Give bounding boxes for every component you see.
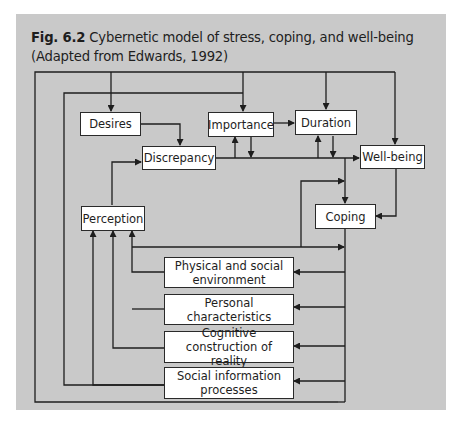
node-importance-label: Importance [208, 118, 274, 132]
arrow-desires-discrepancy [141, 124, 180, 145]
arrow-wellbeing-coping [376, 169, 396, 216]
node-physical-social-environment: Physical and social environment [164, 257, 294, 288]
node-duration: Duration [295, 110, 357, 135]
node-cognitive-construction-label: Cognitive construction of reality [167, 326, 291, 368]
node-cognitive-construction: Cognitive construction of reality [164, 331, 294, 363]
node-discrepancy-label: Discrepancy [144, 151, 215, 165]
node-perception: Perception [81, 206, 145, 231]
node-coping-label: Coping [325, 210, 365, 224]
node-discrepancy: Discrepancy [142, 146, 216, 170]
node-personal-characteristics: Personal characteristics [164, 294, 294, 325]
node-personal-characteristics-label: Personal characteristics [179, 296, 279, 324]
node-well-being: Well-being [360, 145, 425, 169]
node-perception-label: Perception [83, 212, 144, 226]
node-social-information-processes-label: Social information processes [173, 369, 285, 397]
node-desires-label: Desires [89, 117, 132, 131]
node-duration-label: Duration [301, 116, 351, 130]
node-physical-social-environment-label: Physical and social environment [170, 259, 288, 287]
node-importance: Importance [208, 112, 274, 137]
node-coping: Coping [315, 204, 376, 229]
node-desires: Desires [80, 112, 141, 136]
node-well-being-label: Well-being [362, 150, 422, 164]
arrow-perception-discrepancy [112, 162, 141, 205]
node-social-information-processes: Social information processes [164, 367, 294, 399]
